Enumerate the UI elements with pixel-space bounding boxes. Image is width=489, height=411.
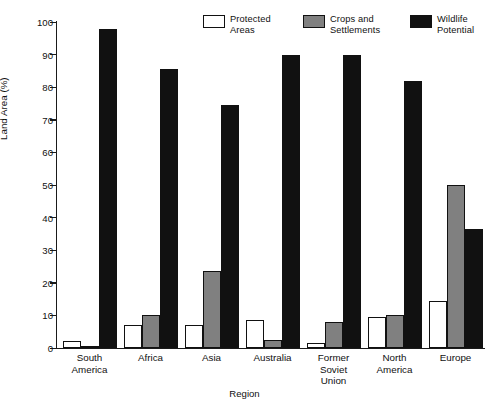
y-axis-tick-label: 20 — [42, 277, 53, 288]
y-axis-tick-label: 50 — [42, 180, 53, 191]
bar-group — [185, 22, 239, 348]
x-axis-label: Europe — [415, 352, 489, 364]
y-axis-tick-label: 40 — [42, 212, 53, 223]
y-axis-tick-label: 70 — [42, 114, 53, 125]
bar-group — [307, 22, 361, 348]
bar-group — [429, 22, 483, 348]
bar-crops — [142, 315, 160, 348]
bar-series-container — [57, 22, 484, 348]
y-axis-title: Land Area (%) — [0, 30, 9, 140]
bar-protected — [124, 325, 142, 348]
bar-protected — [246, 320, 264, 348]
bar-crops — [386, 315, 404, 348]
bar-crops — [325, 322, 343, 348]
bar-protected — [368, 317, 386, 348]
bar-wildlife — [221, 105, 239, 348]
bar-group — [63, 22, 117, 348]
bar-wildlife — [343, 55, 361, 348]
y-axis-tick-label: 30 — [42, 245, 53, 256]
x-axis-title: Region — [0, 388, 489, 399]
bar-wildlife — [404, 81, 422, 348]
y-axis-tick-label: 60 — [42, 147, 53, 158]
y-axis-tick-label: 80 — [42, 82, 53, 93]
bar-wildlife — [160, 69, 178, 348]
bar-protected — [429, 301, 447, 348]
plot-area: 0102030405060708090100 — [57, 22, 484, 348]
bar-protected — [185, 325, 203, 348]
bar-protected — [307, 343, 325, 348]
bar-chart: Protected Areas Crops and Settlements Wi… — [0, 0, 489, 411]
y-axis-tick-label: 100 — [37, 17, 53, 28]
bar-wildlife — [99, 29, 117, 348]
bar-protected — [63, 341, 81, 348]
bar-wildlife — [282, 55, 300, 348]
y-axis-tick-label: 10 — [42, 310, 53, 321]
bar-crops — [81, 346, 99, 348]
bar-group — [246, 22, 300, 348]
bar-crops — [447, 185, 465, 348]
bar-crops — [203, 271, 221, 348]
bar-crops — [264, 340, 282, 348]
bar-group — [368, 22, 422, 348]
bar-wildlife — [465, 229, 483, 348]
bar-group — [124, 22, 178, 348]
y-axis-tick-label: 90 — [42, 49, 53, 60]
